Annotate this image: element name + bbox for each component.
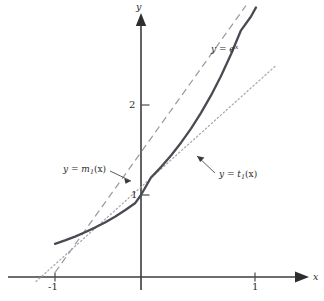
secant-label: y = m1(x) <box>63 165 106 174</box>
x-tick-label-1: 1 <box>252 282 258 292</box>
tangent-leader-arrowhead <box>197 156 204 162</box>
secant-label-prefix: y = m <box>63 164 90 174</box>
tangent-label: y = t1(x) <box>219 170 257 179</box>
tangent-label-prefix: y = t <box>219 169 241 179</box>
secant-leader-line <box>110 171 131 181</box>
tangent-label-suffix: (x) <box>245 169 257 179</box>
exp-curve-label-prefix: y = e <box>211 44 235 54</box>
plot-canvas <box>0 0 324 301</box>
y-tick-label-2: 2 <box>129 100 135 110</box>
y-axis-arrowhead <box>136 13 146 26</box>
exp-curve-label-exponent: x <box>235 43 239 51</box>
secant-label-suffix: (x) <box>94 164 106 174</box>
x-axis-label: x <box>313 272 318 282</box>
tangent-label-subscript: 1 <box>241 173 245 181</box>
math-figure: y x 2 1 -1 1 y = ex y = m1(x) y = t1(x) <box>0 0 324 301</box>
y-axis-label: y <box>136 2 141 12</box>
x-tick-label-neg1: -1 <box>48 282 58 292</box>
secant-label-subscript: 1 <box>90 168 94 176</box>
y-tick-label-1: 1 <box>131 190 137 200</box>
x-axis-arrowhead <box>295 272 309 283</box>
exponential-curve <box>55 7 256 244</box>
exp-curve-label: y = ex <box>211 45 238 54</box>
